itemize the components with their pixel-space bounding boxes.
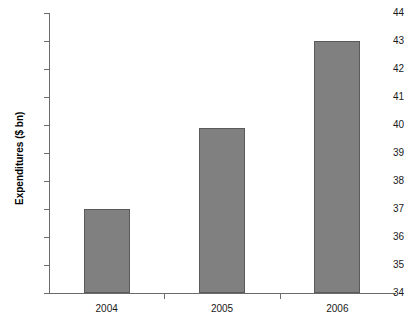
y-axis-tick xyxy=(44,97,49,98)
y-axis-tick xyxy=(44,125,49,126)
y-axis-tick-label: 37 xyxy=(368,204,404,214)
y-axis-tick xyxy=(44,41,49,42)
x-axis-tick xyxy=(280,294,281,299)
y-axis-tick xyxy=(44,13,49,14)
y-axis-tick xyxy=(44,209,49,210)
y-axis-tick xyxy=(44,153,49,154)
y-axis-title: Expenditures ($ bn) xyxy=(14,112,25,205)
x-axis-tick-label: 2004 xyxy=(77,303,137,315)
bar xyxy=(314,41,360,293)
y-axis-tick-label: 34 xyxy=(368,288,404,298)
bar xyxy=(199,128,245,293)
y-axis-tick-label: 44 xyxy=(368,8,404,18)
bar xyxy=(84,209,130,293)
y-axis-tick xyxy=(44,293,49,294)
y-axis-tick-label: 40 xyxy=(368,120,404,130)
y-axis-tick xyxy=(44,181,49,182)
y-axis-tick-label: 39 xyxy=(368,148,404,158)
bar-chart: Expenditures ($ bn) 44434241403938373635… xyxy=(0,0,404,326)
y-axis-tick-label: 38 xyxy=(368,176,404,186)
x-axis-tick-label: 2006 xyxy=(307,303,367,315)
x-axis-line xyxy=(49,293,396,294)
y-axis-tick-label: 41 xyxy=(368,92,404,102)
x-axis-tick xyxy=(164,294,165,299)
y-axis-tick xyxy=(44,237,49,238)
y-axis-line xyxy=(49,13,50,294)
y-axis-tick-label: 35 xyxy=(368,260,404,270)
y-axis-tick-label: 42 xyxy=(368,64,404,74)
y-axis-tick xyxy=(44,265,49,266)
y-axis-tick xyxy=(44,69,49,70)
x-axis-tick-label: 2005 xyxy=(192,303,252,315)
y-axis-tick-label: 43 xyxy=(368,36,404,46)
y-axis-tick-label: 36 xyxy=(368,232,404,242)
